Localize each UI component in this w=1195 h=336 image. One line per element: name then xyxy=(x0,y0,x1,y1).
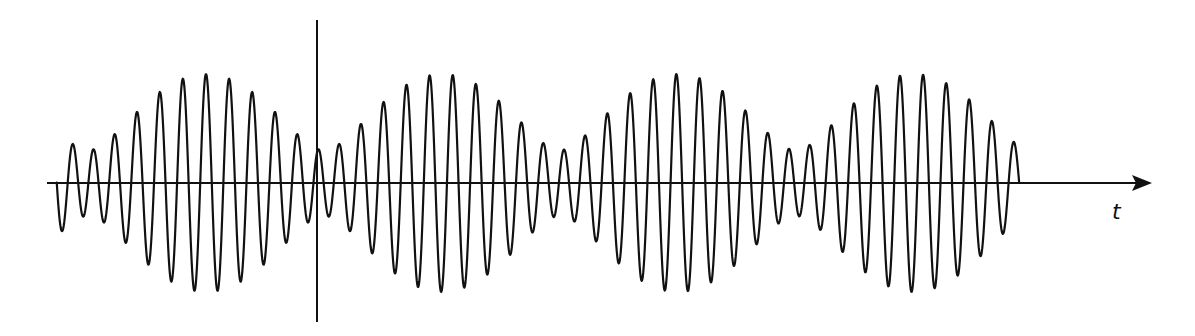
beat-waveform-diagram: t xyxy=(0,0,1195,336)
time-axis-label: t xyxy=(1112,199,1122,224)
